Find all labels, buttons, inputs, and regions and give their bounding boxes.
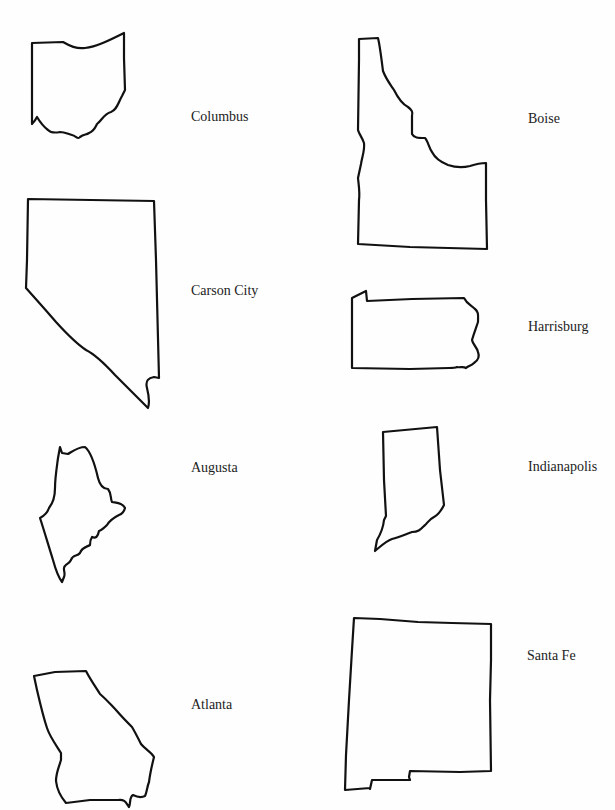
capital-label-carson-city: Carson City bbox=[191, 284, 258, 298]
idaho-outline-icon bbox=[358, 38, 487, 249]
georgia-outline-icon bbox=[34, 671, 154, 807]
capital-label-boise: Boise bbox=[528, 112, 560, 126]
capital-label-harrisburg: Harrisburg bbox=[528, 320, 588, 334]
capital-label-columbus: Columbus bbox=[191, 110, 249, 124]
new-mexico-outline-icon bbox=[345, 618, 491, 790]
indiana-outline-icon bbox=[375, 427, 444, 551]
pennsylvania-outline-icon bbox=[352, 291, 479, 369]
capital-label-atlanta: Atlanta bbox=[191, 698, 232, 712]
ohio-outline-icon bbox=[32, 33, 125, 138]
state-outlines bbox=[0, 0, 615, 810]
maine-outline-icon bbox=[40, 447, 125, 582]
nevada-outline-icon bbox=[26, 199, 159, 408]
capital-label-indianapolis: Indianapolis bbox=[528, 460, 597, 474]
capital-label-augusta: Augusta bbox=[191, 461, 238, 475]
capital-label-santa-fe: Santa Fe bbox=[527, 649, 576, 663]
worksheet-page: Columbus Carson City Augusta Atlanta Boi… bbox=[0, 0, 615, 810]
